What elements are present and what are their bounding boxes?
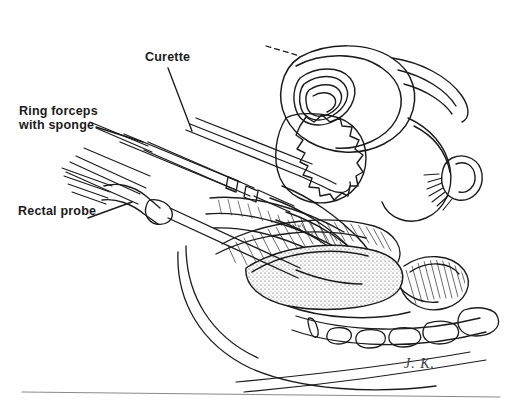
footer-rule: [22, 392, 500, 397]
leader-line-curette: [168, 68, 192, 131]
fallopian-tube: [382, 118, 451, 221]
curette-instrument: [186, 118, 350, 192]
levator-hatching: [406, 258, 467, 304]
body-contour-lower: [236, 352, 486, 392]
vertebra: [356, 330, 385, 348]
anatomical-drawing: [0, 0, 512, 405]
artist-signature: J. K.: [404, 356, 435, 372]
uterus-outline: [281, 46, 415, 152]
label-ring-forceps: Ring forcepswith sponge: [19, 105, 98, 132]
leader-line-ring-forceps: [96, 127, 143, 142]
illustration-canvas: Curette Ring forcepswith sponge Rectal p…: [0, 0, 512, 405]
vaginal-wall-hatching: [218, 198, 325, 252]
label-curette: Curette: [145, 51, 190, 65]
label-rectal-probe: Rectal probe: [18, 205, 96, 219]
label-ring-forceps-line2: with sponge: [19, 118, 94, 132]
fimbriae: [424, 174, 452, 210]
label-ring-forceps-line1: Ring forceps: [19, 104, 98, 118]
dashed-reference-line: [266, 46, 300, 56]
